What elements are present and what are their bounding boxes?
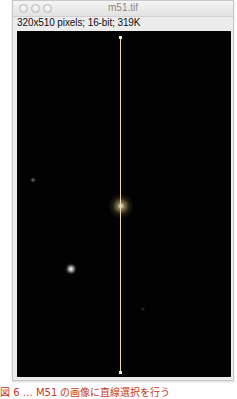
image-info: 320x510 pixels; 16-bit; 319K bbox=[17, 17, 140, 28]
dim-star bbox=[141, 307, 145, 311]
figure-caption: 図 6 … M51 の画像に直線選択を行う bbox=[0, 384, 170, 399]
title-bar[interactable]: m51.tif bbox=[13, 1, 233, 17]
image-window: m51.tif 320x510 pixels; 16-bit; 319K bbox=[12, 0, 234, 381]
line-selection[interactable] bbox=[120, 37, 121, 373]
line-handle-top[interactable] bbox=[119, 36, 122, 39]
image-canvas[interactable] bbox=[17, 31, 231, 377]
window-title: m51.tif bbox=[13, 2, 233, 13]
line-handle-bottom[interactable] bbox=[119, 371, 122, 374]
faint-star bbox=[30, 177, 36, 183]
bright-star bbox=[65, 263, 77, 275]
galaxy-nucleus bbox=[108, 193, 134, 219]
